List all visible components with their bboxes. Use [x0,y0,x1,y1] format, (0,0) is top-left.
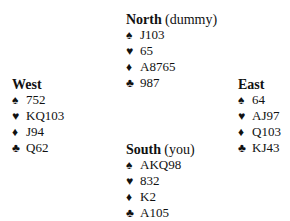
east-diamonds-cards: Q103 [252,124,281,139]
east-diamonds: ♦Q103 [238,124,281,140]
north-hand: North (dummy) ♠J103 ♥65 ♦A8765 ♣987 [126,12,217,91]
heart-icon: ♥ [12,109,26,124]
north-hearts: ♥65 [126,43,217,59]
west-name: West [12,77,42,92]
south-header: South (you) [126,142,195,157]
west-diamonds-cards: J94 [26,124,44,139]
west-diamonds: ♦J94 [12,124,64,140]
west-clubs-cards: Q62 [26,140,48,155]
spade-icon: ♠ [238,93,252,108]
south-diamonds-cards: K2 [140,189,156,204]
south-spades: ♠AKQ98 [126,157,195,173]
east-name: East [238,77,264,92]
south-clubs-cards: A105 [140,205,169,220]
east-hearts: ♥AJ97 [238,108,281,124]
west-hand: West ♠752 ♥KQ103 ♦J94 ♣Q62 [12,77,64,156]
club-icon: ♣ [126,76,140,91]
east-spades-cards: 64 [252,92,265,107]
heart-icon: ♥ [126,44,140,59]
diamond-icon: ♦ [126,60,140,75]
west-header: West [12,77,64,92]
south-diamonds: ♦K2 [126,189,195,205]
south-name: South [126,142,161,157]
north-clubs: ♣987 [126,75,217,91]
north-diamonds-cards: A8765 [140,59,175,74]
west-hearts: ♥KQ103 [12,108,64,124]
south-role: (you) [164,142,194,157]
north-name: North [126,12,162,27]
north-diamonds: ♦A8765 [126,59,217,75]
spade-icon: ♠ [126,158,140,173]
west-hearts-cards: KQ103 [26,108,64,123]
east-hearts-cards: AJ97 [252,108,279,123]
north-hearts-cards: 65 [140,43,153,58]
east-clubs: ♣KJ43 [238,140,281,156]
north-role: (dummy) [165,12,217,27]
south-clubs: ♣A105 [126,205,195,221]
club-icon: ♣ [238,141,252,156]
south-hearts: ♥832 [126,173,195,189]
spade-icon: ♠ [126,28,140,43]
west-spades: ♠752 [12,92,64,108]
north-clubs-cards: 987 [140,75,160,90]
east-header: East [238,77,281,92]
north-spades: ♠J103 [126,27,217,43]
east-spades: ♠64 [238,92,281,108]
diamond-icon: ♦ [126,190,140,205]
south-spades-cards: AKQ98 [140,157,181,172]
east-hand: East ♠64 ♥AJ97 ♦Q103 ♣KJ43 [238,77,281,156]
heart-icon: ♥ [126,174,140,189]
spade-icon: ♠ [12,93,26,108]
heart-icon: ♥ [238,109,252,124]
north-spades-cards: J103 [140,27,165,42]
north-header: North (dummy) [126,12,217,27]
diamond-icon: ♦ [12,125,26,140]
club-icon: ♣ [126,206,140,221]
east-clubs-cards: KJ43 [252,140,279,155]
diamond-icon: ♦ [238,125,252,140]
south-hearts-cards: 832 [140,173,160,188]
south-hand: South (you) ♠AKQ98 ♥832 ♦K2 ♣A105 [126,142,195,221]
west-spades-cards: 752 [26,92,46,107]
club-icon: ♣ [12,141,26,156]
west-clubs: ♣Q62 [12,140,64,156]
